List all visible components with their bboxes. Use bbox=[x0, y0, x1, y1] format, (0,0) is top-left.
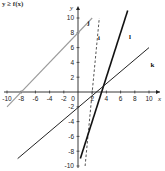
chart: xy-10-8-6-4-20246810-10-8-6-4-2246810 ji… bbox=[0, 0, 165, 171]
line-k bbox=[18, 48, 149, 159]
y-tick-label: -6 bbox=[68, 133, 74, 140]
line-l bbox=[80, 11, 127, 159]
line-label-l: l bbox=[129, 33, 131, 41]
x-tick-label: 4 bbox=[105, 95, 109, 102]
y-tick-label: -2 bbox=[68, 103, 74, 110]
x-tick-label: -6 bbox=[33, 95, 39, 102]
x-tick-label: 10 bbox=[145, 95, 153, 102]
x-tick-label: 0 bbox=[71, 95, 75, 102]
line-label-j: j bbox=[86, 19, 89, 27]
x-tick-label: -2 bbox=[61, 95, 67, 102]
line-label-i: i bbox=[98, 34, 100, 42]
y-tick-label: 6 bbox=[70, 44, 74, 51]
x-tick-label: -8 bbox=[18, 95, 24, 102]
x-tick-label: -4 bbox=[47, 95, 53, 102]
y-tick-label: 8 bbox=[70, 29, 74, 36]
y-axis-label: y bbox=[69, 4, 74, 12]
y-tick-label: 2 bbox=[70, 74, 74, 81]
x-tick-label: 8 bbox=[133, 95, 137, 102]
y-tick-label: -4 bbox=[68, 118, 74, 125]
y-tick-label: -10 bbox=[65, 162, 75, 169]
x-tick-label: -10 bbox=[2, 95, 12, 102]
y-tick-label: 10 bbox=[67, 14, 75, 21]
x-axis-label: x bbox=[157, 95, 162, 103]
y-tick-label: -8 bbox=[68, 148, 74, 155]
line-label-k: k bbox=[150, 61, 154, 69]
x-axis-arrow-icon bbox=[156, 90, 160, 94]
y-axis-arrow-icon bbox=[76, 6, 80, 10]
x-tick-label: 6 bbox=[119, 95, 123, 102]
y-tick-label: 4 bbox=[70, 59, 74, 66]
